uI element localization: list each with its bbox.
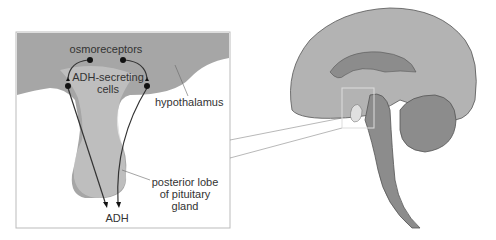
adh-diagram: osmoreceptors ADH-secreting cells hypoth…: [0, 0, 496, 240]
label-posterior-3: gland: [172, 200, 199, 212]
label-posterior-2: of pituitary: [160, 188, 211, 200]
brain-sagittal: [290, 8, 476, 228]
label-adh: ADH: [105, 212, 128, 224]
label-adh-cells-2: cells: [97, 83, 120, 95]
cerebellum: [400, 95, 456, 152]
label-osmoreceptors: osmoreceptors: [70, 43, 143, 55]
osmoreceptor-left: [87, 57, 93, 63]
label-hypothalamus: hypothalamus: [155, 96, 224, 108]
label-posterior-1: posterior lobe: [152, 176, 219, 188]
label-adh-cells-1: ADH-secreting: [72, 71, 144, 83]
osmoreceptor-right: [120, 57, 126, 63]
inset-panel: osmoreceptors ADH-secreting cells hypoth…: [16, 32, 230, 228]
